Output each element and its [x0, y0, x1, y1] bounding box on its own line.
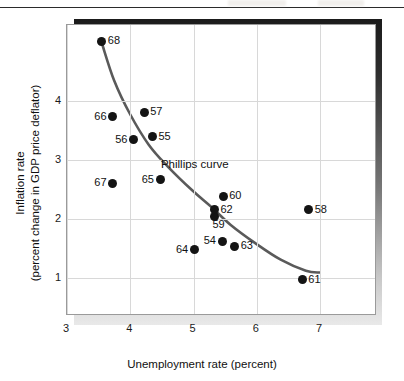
gridline-vertical [257, 25, 258, 314]
data-point [156, 175, 165, 184]
data-point-label: 60 [229, 190, 241, 201]
x-tick-label: 7 [316, 322, 322, 334]
scan-artifact [228, 0, 286, 6]
x-axis-title: Unemployment rate (percent) [0, 358, 404, 370]
data-point-label: 57 [150, 106, 162, 117]
gridline-vertical [320, 25, 321, 314]
x-tick-label: 4 [126, 322, 132, 334]
y-tick-label: 4 [50, 94, 61, 106]
phillips-curve-annotation: Phillips curve [161, 158, 229, 170]
data-point-label: 56 [115, 134, 127, 145]
x-tick-label: 6 [253, 322, 259, 334]
x-tick-label: 5 [189, 322, 195, 334]
y-axis-title-line1: Inflation rate [14, 151, 26, 214]
data-point [219, 192, 228, 201]
data-point-label: 63 [241, 240, 253, 251]
y-tick-label: 2 [50, 212, 61, 224]
data-point [218, 237, 227, 246]
gridline-vertical [67, 25, 68, 314]
data-point-label: 65 [142, 174, 154, 185]
data-point-label: 62 [220, 204, 232, 215]
y-axis-title-line2: (percent change in GDP price deflator) [28, 63, 43, 303]
plot-area: 545556575859606162636465666768Phillips c… [67, 25, 375, 314]
data-point-label: 67 [94, 177, 106, 188]
y-tick-label: 1 [50, 271, 61, 283]
data-point-label: 58 [315, 204, 327, 215]
data-point [140, 108, 149, 117]
data-point [230, 242, 239, 251]
data-point-label: 54 [204, 235, 216, 246]
data-point [190, 245, 199, 254]
gridline-horizontal [67, 101, 375, 102]
x-tick-label: 3 [63, 322, 69, 334]
data-point [298, 275, 307, 284]
y-axis-title: Inflation rate (percent change in GDP pr… [13, 63, 43, 303]
data-point-label: 61 [308, 274, 320, 285]
gridline-vertical [130, 25, 131, 314]
data-point-label: 66 [94, 111, 106, 122]
plot-frame: 545556575859606162636465666768Phillips c… [66, 24, 376, 315]
page-top-rule [0, 7, 404, 8]
data-point [210, 205, 219, 214]
data-point [129, 135, 138, 144]
phillips-curve-figure: 545556575859606162636465666768Phillips c… [0, 0, 404, 381]
data-point-label: 55 [158, 131, 170, 142]
data-point-label: 59 [212, 219, 224, 230]
y-tick-label: 3 [50, 153, 61, 165]
data-point-label: 68 [108, 35, 120, 46]
gridline-horizontal [67, 278, 375, 279]
data-point [108, 179, 117, 188]
data-point-label: 64 [176, 244, 188, 255]
scan-artifact [318, 0, 364, 6]
